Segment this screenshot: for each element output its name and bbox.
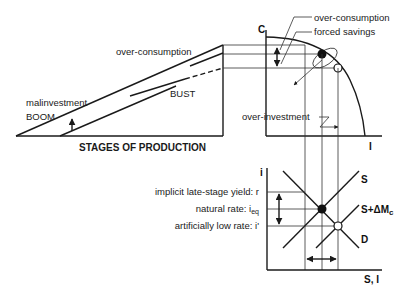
stages-of-production-title: STAGES OF PRODUCTION	[79, 142, 206, 153]
malinvestment-hypotenuse	[60, 86, 176, 136]
ppf-c-axis-label: C	[258, 24, 265, 35]
equilibrium-point-lf	[318, 205, 327, 214]
movement-arrow	[294, 60, 322, 85]
distorted-point-lf	[334, 222, 342, 230]
lf-si-axis-label: S, I	[364, 274, 379, 285]
bust-label: BUST	[170, 88, 196, 99]
over-consumption-segment	[190, 53, 223, 66]
lf-i-axis-label: i	[260, 167, 263, 178]
bust-line-dashed	[185, 68, 223, 79]
over-consumption-label-right: over-consumption	[314, 12, 390, 23]
connector-lines-vertical	[305, 45, 338, 270]
ppf-i-axis-label: I	[369, 141, 372, 152]
demand-label: D	[361, 234, 368, 245]
over-investment-leader	[319, 117, 330, 127]
natural-rate-label: natural rate: ieq	[196, 203, 259, 216]
forced-savings-label: forced savings	[314, 26, 376, 37]
malinvestment-label: malinvestment	[26, 97, 88, 108]
supply-shifted-label: S+ΔMc	[361, 204, 394, 217]
over-consumption-label-left: over-consumption	[116, 46, 192, 57]
over-investment-label: over-investment	[242, 111, 310, 122]
ppf-chart: C I over-consumption forced savings over…	[242, 12, 390, 152]
boom-label: BOOM	[26, 111, 55, 122]
supply-label: S	[361, 174, 368, 185]
hayekian-triangle: over-consumption BUST malinvestment BOOM…	[16, 45, 223, 153]
artificial-rate-label: artificially low rate: i'	[175, 220, 259, 231]
loanable-funds-chart: i S, I S S+ΔMc D implicit late-stage yie…	[155, 167, 394, 285]
implicit-rate-label: implicit late-stage yield: r	[155, 186, 259, 197]
austrian-business-cycle-diagram: over-consumption BUST malinvestment BOOM…	[0, 0, 410, 298]
